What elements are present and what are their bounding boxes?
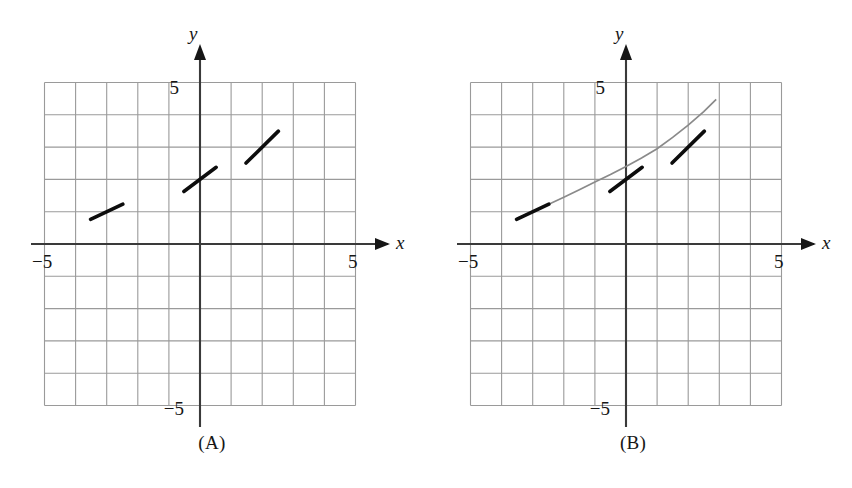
coordinate-plot-a: x y 5 −5 −5 5 (0, 0, 426, 430)
x-axis-label: x (395, 232, 405, 253)
y-axis-label: y (613, 23, 624, 44)
x-tick-negative-five: −5 (32, 251, 52, 272)
x-tick-positive-five: 5 (348, 251, 358, 272)
figure-panel-a: x y 5 −5 −5 5 (A) (0, 0, 426, 488)
x-axis-arrowhead (801, 238, 816, 250)
slope-segments-a (91, 131, 279, 219)
y-axis-arrowhead (194, 44, 206, 60)
y-tick-negative-five: −5 (590, 398, 610, 419)
panel-caption-a: (A) (0, 432, 425, 454)
y-axis-label: y (187, 23, 198, 44)
y-tick-positive-five: 5 (596, 77, 606, 98)
axes-a (31, 44, 390, 427)
figure-panel-b: x y 5 −5 −5 5 (B) (426, 0, 852, 488)
axes-b (457, 44, 816, 427)
x-axis-arrowhead (375, 238, 390, 250)
panel-caption-b: (B) (420, 432, 846, 454)
x-tick-positive-five: 5 (774, 251, 784, 272)
solution-curve (519, 99, 716, 217)
x-tick-negative-five: −5 (458, 251, 478, 272)
coordinate-plot-b: x y 5 −5 −5 5 (426, 0, 852, 430)
x-axis-label: x (821, 232, 831, 253)
y-tick-positive-five: 5 (170, 77, 180, 98)
y-tick-negative-five: −5 (164, 398, 184, 419)
y-axis-arrowhead (620, 44, 632, 60)
